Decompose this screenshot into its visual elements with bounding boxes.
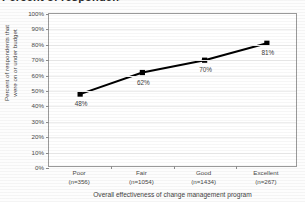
y-axis-tick-mark (46, 60, 49, 61)
chart-figure: Percent of respondents on or under budge… (0, 0, 305, 202)
y-axis-tick-label: 80% (21, 40, 44, 47)
y-axis-tick-label: 70% (21, 56, 44, 63)
y-axis-tick-mark (46, 122, 49, 123)
x-axis-category-name: Poor (43, 169, 115, 178)
y-axis-title-line-1: Percent of respondents that (3, 0, 11, 128)
gridline (49, 29, 296, 30)
y-axis-tick-mark (46, 29, 49, 30)
y-axis-tick-mark (46, 14, 49, 15)
x-axis-category-name: Excellent (230, 169, 302, 178)
x-axis-category-label: Good(n=1434) (168, 169, 240, 186)
x-axis-category-labels: Poor(n=356)Fair(n=1054)Good(n=1434)Excel… (48, 169, 297, 191)
gridline (49, 91, 296, 92)
data-point-label: 81% (261, 49, 274, 56)
y-axis-title-line-2: were on or under budget (11, 0, 19, 128)
x-axis-category-name: Fair (105, 169, 177, 178)
y-axis-tick-label: 50% (21, 87, 44, 94)
data-point-label: 62% (137, 79, 150, 86)
x-axis-category-count: (n=1434) (168, 178, 240, 187)
y-axis-tick-label: 90% (21, 25, 44, 32)
y-axis-tick-label: 60% (21, 71, 44, 78)
x-axis-category-label: Poor(n=356) (43, 169, 115, 186)
x-axis-category-label: Excellent(n=267) (230, 169, 302, 186)
gridline (49, 122, 296, 123)
gridline (49, 45, 296, 46)
gridline (49, 137, 296, 138)
series-line (80, 43, 267, 94)
y-axis-tick-mark (46, 45, 49, 46)
y-axis-tick-label: 100% (21, 10, 44, 17)
gridline (49, 60, 296, 61)
data-point-label: 48% (75, 100, 88, 107)
x-axis-category-count: (n=356) (43, 178, 115, 187)
y-axis-tick-label: 40% (21, 102, 44, 109)
x-axis-title: Overall effectiveness of change manageme… (48, 191, 297, 198)
y-axis-tick-label: 0% (21, 164, 44, 171)
y-axis-tick-mark (46, 106, 49, 107)
y-axis-tick-mark (46, 137, 49, 138)
y-axis-tick-mark (46, 76, 49, 77)
data-point-marker (140, 70, 145, 75)
y-axis-tick-labels: 0%10%20%30%40%50%60%70%80%90%100% (21, 0, 44, 202)
gridline (49, 153, 296, 154)
gridline (49, 76, 296, 77)
x-axis-category-count: (n=1054) (105, 178, 177, 187)
y-axis-tick-mark (46, 91, 49, 92)
plot-area: 48%62%70%81% (48, 13, 297, 167)
x-axis-category-label: Fair(n=1054) (105, 169, 177, 186)
data-point-label: 70% (199, 66, 212, 73)
x-axis-category-count: (n=267) (230, 178, 302, 187)
y-axis-tick-label: 30% (21, 117, 44, 124)
y-axis-tick-label: 20% (21, 133, 44, 140)
y-axis-tick-label: 10% (21, 148, 44, 155)
x-axis-category-name: Good (168, 169, 240, 178)
y-axis-tick-mark (46, 153, 49, 154)
data-point-marker (78, 91, 83, 96)
